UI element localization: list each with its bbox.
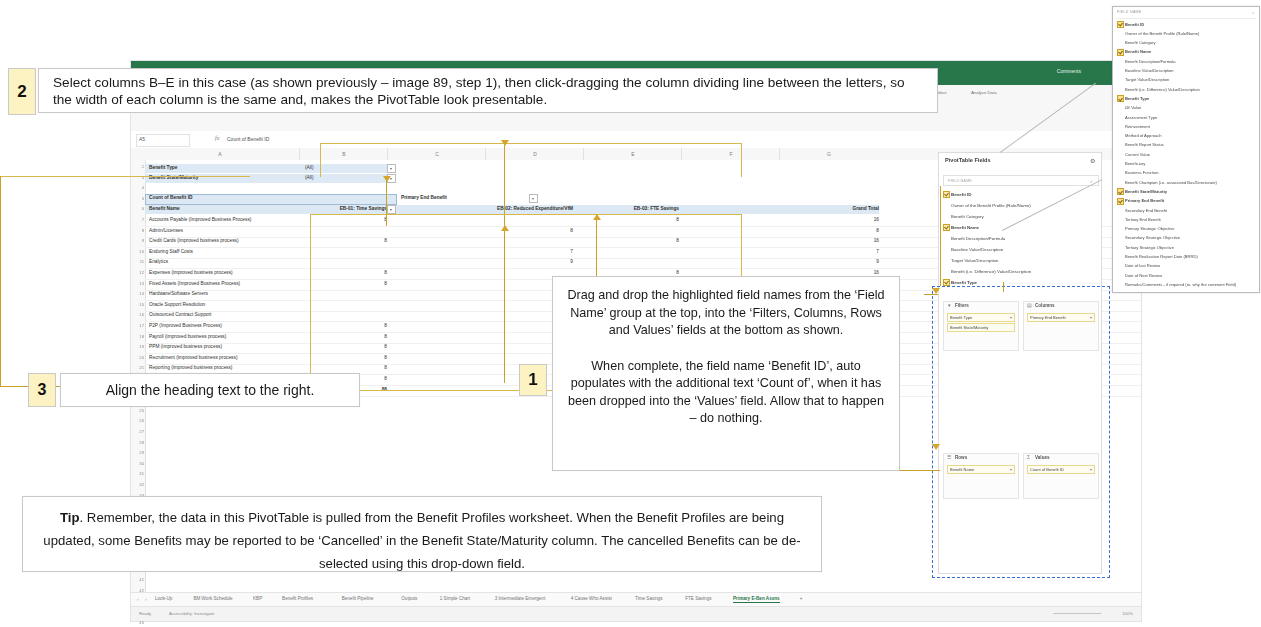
field-checkbox-checked[interactable] (943, 224, 950, 231)
sheet-nav-next-icon[interactable]: › (145, 597, 147, 602)
zoomed-field-item[interactable]: Reinvestment (1125, 124, 1150, 129)
sheet-tab[interactable]: Look-Up (155, 596, 172, 601)
sheet-tab[interactable]: KBP (253, 596, 262, 601)
sheet-tab[interactable]: 4 Cause Who Assist (571, 596, 612, 601)
zoomed-field-checkbox-checked[interactable] (1117, 198, 1124, 205)
pivot-pane-field-item[interactable]: Benefit Description/Formula (951, 236, 1005, 241)
row-number[interactable]: 41 (132, 577, 144, 582)
row-number[interactable]: 4 (132, 185, 144, 190)
row-number[interactable]: 29 (132, 450, 144, 455)
row-number[interactable]: 13 (132, 281, 144, 286)
columns-caption-dropdown[interactable] (529, 194, 538, 203)
gear-icon[interactable]: ⚙ (1090, 157, 1095, 164)
row-number[interactable]: 9 (132, 238, 144, 243)
filter-value-benefit-type[interactable]: (All) (305, 165, 314, 170)
row-number[interactable]: 12 (132, 270, 144, 275)
row-number[interactable]: 10 (132, 249, 144, 254)
row-number[interactable]: 5 (132, 196, 144, 201)
formula-bar-value[interactable]: Count of Benefit ID (227, 136, 269, 142)
zoomed-field-item[interactable]: Benefit Realisation Report Date (BRRD) (1125, 254, 1198, 259)
pivot-pane-field-item[interactable]: Benefit ID (951, 192, 972, 197)
zoomed-field-item[interactable]: Benefit Name (1125, 49, 1151, 54)
sheet-nav-prev-icon[interactable]: ‹ (137, 597, 139, 602)
zoomed-field-item[interactable]: Tertiary End Benefit (1125, 217, 1161, 222)
column-header-g[interactable]: G (781, 151, 877, 157)
zoomed-field-item[interactable]: Beneficiary (1125, 161, 1145, 166)
sheet-tab[interactable]: Time Savings (635, 596, 663, 601)
zoom-slider[interactable] (1053, 613, 1101, 614)
pivot-pane-field-item[interactable]: Baseline Value/Description (951, 247, 1003, 252)
pivot-pane-field-item[interactable]: Target Value/Description (951, 258, 999, 263)
row-number[interactable]: 28 (132, 440, 144, 445)
zoomed-field-item[interactable]: Current Value (1125, 152, 1150, 157)
zoomed-field-item[interactable]: Primary End Benefit (1125, 198, 1164, 203)
zoomed-field-item[interactable]: Secondary End Benefit (1125, 208, 1167, 213)
status-accessibility[interactable]: Accessibility: Investigate (169, 611, 214, 616)
add-sheet-button[interactable]: + (800, 596, 803, 601)
comments-button[interactable]: Comments (1057, 68, 1081, 74)
zoomed-field-item[interactable]: Assessment Type (1125, 115, 1157, 120)
row-number[interactable]: 18 (132, 334, 144, 339)
sheet-tab[interactable]: Benefit Pipeline (342, 596, 374, 601)
zoomed-field-item[interactable]: Benefit ID (1125, 22, 1144, 27)
zoomed-field-item[interactable]: Secondary Strategic Objective (1125, 235, 1180, 240)
zoomed-field-item[interactable]: Benefit (i.e. Difference) Value/Descript… (1125, 87, 1200, 92)
zoomed-field-item[interactable]: Owner of the Benefit Profile (Role/Name) (1125, 31, 1199, 36)
pivot-pane-field-item[interactable]: Benefit Name (951, 225, 979, 230)
zoomed-field-item[interactable]: Benefit Description/Formula (1125, 59, 1176, 64)
filter-value-benefit-state[interactable]: (All) (305, 175, 314, 180)
pivot-pane-field-item[interactable]: Benefit (i.e. Difference) Value/Descript… (951, 269, 1031, 274)
sheet-tab[interactable]: BM Work Schedule (193, 596, 232, 601)
row-number[interactable]: 30 (132, 461, 144, 466)
row-number[interactable]: 6 (132, 206, 144, 211)
status-zoom-level[interactable]: 100% (1122, 611, 1133, 616)
sheet-tab[interactable]: FTE Savings (685, 596, 711, 601)
fx-icon[interactable]: fx (215, 135, 219, 141)
zoomed-field-item[interactable]: Date of Next Review (1125, 273, 1162, 278)
sheet-tab[interactable]: 1 Simple Chart (440, 596, 470, 601)
row-number[interactable]: 8 (132, 228, 144, 233)
sheet-tab-bar[interactable]: ‹ › Look-UpBM Work ScheduleKBPBenefit Pr… (131, 592, 1141, 607)
column-header-a[interactable]: A (145, 151, 295, 157)
sheet-tab[interactable]: Benefit Profiles (282, 596, 313, 601)
zoomed-field-item[interactable]: Method of Approach (1125, 133, 1162, 138)
row-number[interactable]: 11 (132, 259, 144, 264)
zoomed-field-checkbox-checked[interactable] (1117, 49, 1124, 56)
field-search-input[interactable]: FIELD NAME ⌕ (943, 175, 1099, 186)
row-number[interactable]: 31 (132, 471, 144, 476)
row-number[interactable]: 26 (132, 418, 144, 423)
pivot-pane-field-item[interactable]: Benefit Type (951, 280, 977, 285)
analyse-data-button[interactable]: Analyse Data (971, 90, 997, 95)
zoomed-field-checkbox-checked[interactable] (1117, 188, 1124, 195)
search-icon[interactable]: ⌕ (1252, 10, 1254, 15)
zoomed-field-item[interactable]: Remarks/Comments - if required (re. why … (1125, 282, 1236, 287)
sheet-tab[interactable]: Primary E-Ben Assns (733, 596, 780, 603)
row-number[interactable]: 20 (132, 355, 144, 360)
row-number[interactable]: 25 (132, 408, 144, 413)
field-checkbox-checked[interactable] (943, 279, 950, 286)
zoomed-field-item[interactable]: Date of last Review (1125, 263, 1160, 268)
zoomed-field-item[interactable]: Baseline Value/Description (1125, 68, 1174, 73)
row-number[interactable]: 16 (132, 312, 144, 317)
zoomed-field-item[interactable]: Target Value/Description (1125, 77, 1169, 82)
zoomed-field-item[interactable]: Benefit Champion (i.e. associated Bus/Di… (1125, 180, 1217, 185)
row-number[interactable]: 7 (132, 217, 144, 222)
pivot-pane-field-item[interactable]: Benefit Category (951, 214, 984, 219)
zoomed-field-item[interactable]: Benefit State/Maturity (1125, 189, 1167, 194)
row-number[interactable]: 17 (132, 323, 144, 328)
zoomed-field-checkbox-checked[interactable] (1117, 95, 1124, 102)
zoomed-field-item[interactable]: Benefit Type (1125, 96, 1149, 101)
row-number[interactable]: 21 (132, 365, 144, 370)
row-number[interactable]: 19 (132, 344, 144, 349)
zoomed-field-item[interactable]: Tertiary Strategic Objective (1125, 245, 1174, 250)
field-checkbox-checked[interactable] (943, 191, 950, 198)
pivot-pane-field-item[interactable]: Owner of the Benefit Profile (Role/Name) (951, 203, 1031, 208)
row-number[interactable]: 14 (132, 291, 144, 296)
zoomed-field-item[interactable]: £E Value (1125, 105, 1141, 110)
zoomed-field-item[interactable]: Benefit Report Status (1125, 142, 1164, 147)
sheet-tab[interactable]: Outputs (401, 596, 417, 601)
sheet-tab[interactable]: 3 Intermediate Emergent (495, 596, 546, 601)
zoomed-field-checkbox-checked[interactable] (1117, 21, 1124, 28)
zoomed-field-item[interactable]: Business Function (1125, 170, 1158, 175)
row-number[interactable]: 2 (132, 164, 144, 169)
